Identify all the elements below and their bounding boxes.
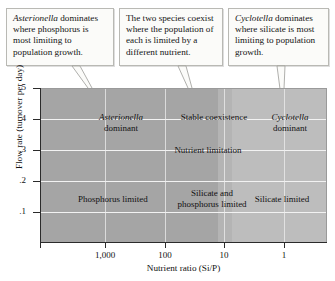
y-tick-label-01: .1: [0, 206, 26, 216]
callout-coexistence: The two species coexist where the popula…: [119, 8, 223, 66]
x-axis-title: Nutrient ratio (Si/P): [40, 263, 327, 273]
plot-area: Asterionella dominant Stable coexistence…: [40, 88, 327, 243]
label-silicate-limited: Silicate limited: [242, 194, 322, 205]
y-tick-04: [33, 119, 41, 120]
x-tick-label-1000: 1,000: [83, 250, 127, 260]
x-tick-10: [224, 242, 225, 248]
label-asterionella-species: Asterionella: [99, 112, 143, 122]
label-nutrient-limitation: Nutrient limitation: [148, 145, 268, 156]
callout-2-text: The two species coexist where the popula…: [126, 13, 214, 57]
y-tick-01: [33, 212, 41, 213]
y-tick-02: [33, 181, 41, 182]
label-asterionella-dominant-text: dominant: [104, 123, 138, 133]
callout-3-species: Cyclotella: [235, 13, 273, 23]
y-tick-05: [33, 88, 41, 89]
label-cyclotella-dominant: Cyclotella dominant: [242, 112, 327, 133]
label-cyclotella-dominant-text: dominant: [273, 123, 307, 133]
label-phosphorus-limited: Phosphorus limited: [68, 194, 158, 205]
x-tick-origin: [40, 242, 41, 248]
y-axis-title: Flow rate (turnover per day): [14, 42, 24, 192]
x-tick-100: [165, 242, 166, 248]
x-tick-label-10: 10: [202, 250, 246, 260]
callout-cyclotella: Cyclotella dominates where silicate is m…: [228, 8, 329, 66]
y-tick-03: [33, 150, 41, 151]
callout-1-species: Asterionella: [13, 13, 58, 23]
x-tick-label-100: 100: [143, 250, 187, 260]
x-tick-1000: [105, 242, 106, 248]
x-tick-1: [284, 242, 285, 248]
label-cyclotella-species: Cyclotella: [272, 112, 309, 122]
label-asterionella-dominant: Asterionella dominant: [73, 112, 169, 133]
y-axis-line: [40, 88, 41, 243]
x-tick-label-1: 1: [262, 250, 306, 260]
